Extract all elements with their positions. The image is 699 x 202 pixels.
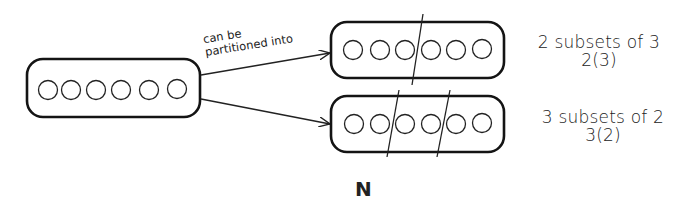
arrow-to-bottom-partition <box>201 99 330 124</box>
bottom-partition-notation: 3(2) <box>518 126 688 144</box>
element-icon <box>87 81 106 100</box>
partition-diagram <box>0 0 699 202</box>
element-icon <box>371 115 390 134</box>
top-partition-description: 2 subsets of 3 <box>514 33 684 51</box>
element-icon <box>344 41 363 60</box>
top-partition-label: 2 subsets of 3 2(3) <box>514 33 684 69</box>
element-icon <box>473 114 492 133</box>
element-icon <box>39 81 58 100</box>
bottom-partition-description: 3 subsets of 2 <box>518 108 688 126</box>
top-partition-notation: 2(3) <box>514 51 684 69</box>
element-icon <box>447 41 466 60</box>
figure-caption: N <box>355 179 372 199</box>
top-partition <box>331 14 504 85</box>
element-icon <box>140 81 159 100</box>
element-icon <box>396 41 415 60</box>
arrow-to-top-partition <box>201 53 330 75</box>
bottom-partition <box>331 90 504 157</box>
bottom-partition-label: 3 subsets of 2 3(2) <box>518 108 688 144</box>
element-icon <box>422 41 441 60</box>
element-icon <box>345 115 364 134</box>
source-set <box>27 59 200 117</box>
element-icon <box>447 115 466 134</box>
element-icon <box>422 115 441 134</box>
element-icon <box>62 81 81 100</box>
element-icon <box>112 81 131 100</box>
element-icon <box>371 41 390 60</box>
element-icon <box>473 40 492 59</box>
element-icon <box>168 80 187 99</box>
element-icon <box>396 115 415 134</box>
